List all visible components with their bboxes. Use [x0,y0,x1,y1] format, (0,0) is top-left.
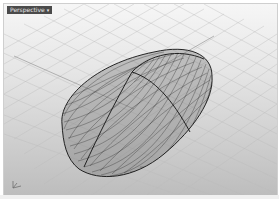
perspective-viewport[interactable]: Perspective ▾ [3,3,278,196]
viewport-title: Perspective [10,6,45,14]
viewport-bottom-border [0,195,279,199]
scene-canvas[interactable] [4,4,277,195]
viewport-title-tab[interactable]: Perspective ▾ [7,6,52,14]
world-axes-icon [10,176,24,195]
chevron-down-icon: ▾ [47,6,50,14]
wireframe-surface[interactable] [62,49,212,176]
